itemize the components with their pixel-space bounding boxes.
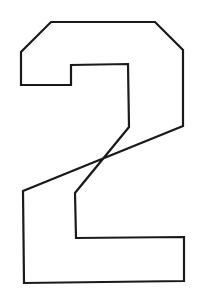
digit-2-figure <box>0 0 199 298</box>
digit-2-outline <box>21 22 184 283</box>
